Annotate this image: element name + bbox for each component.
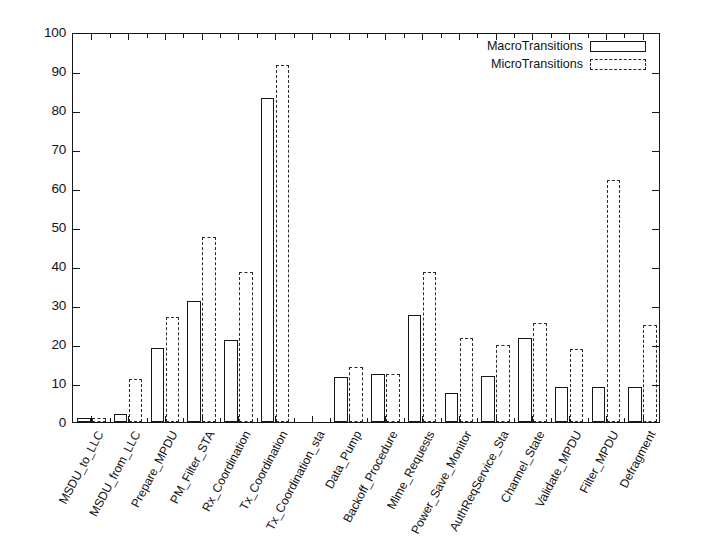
y-tick-mark: [652, 346, 659, 347]
x-tick-mark: [128, 34, 129, 40]
y-tick-label: 80: [32, 104, 66, 118]
y-tick-label: 50: [32, 221, 66, 235]
y-tick-mark: [73, 190, 80, 191]
x-tick-label: Filter_MPDU: [578, 429, 621, 495]
y-tick-mark: [652, 229, 659, 230]
x-tick-mark-minor: [257, 34, 258, 38]
bar-micro: [386, 374, 400, 422]
x-tick-mark: [238, 416, 239, 422]
x-tick-mark-minor: [147, 418, 148, 422]
bar-micro: [129, 379, 143, 422]
x-tick-mark: [606, 416, 607, 422]
bar-micro: [643, 325, 657, 423]
x-tick-mark: [312, 416, 313, 422]
legend-key-macro-icon: [590, 41, 646, 52]
x-tick-mark-minor: [110, 34, 111, 38]
bar-micro: [349, 367, 363, 422]
bar-micro: [533, 323, 547, 422]
x-tick-mark-minor: [404, 418, 405, 422]
x-tick-mark-minor: [477, 418, 478, 422]
y-tick-mark: [73, 307, 80, 308]
bar-micro: [607, 180, 621, 422]
y-tick-label: 60: [32, 182, 66, 196]
y-tick-label: 30: [32, 299, 66, 313]
y-tick-label: 20: [32, 338, 66, 352]
y-tick-label: 0: [32, 416, 66, 430]
y-tick-mark: [73, 268, 80, 269]
bar-macro: [628, 387, 642, 422]
x-tick-mark-minor: [294, 418, 295, 422]
x-tick-mark: [275, 416, 276, 422]
x-tick-mark-minor: [514, 418, 515, 422]
bar-macro: [151, 348, 165, 422]
y-axis: 0102030405060708090100: [26, 0, 66, 538]
bar-micro: [92, 418, 106, 422]
bars-layer: [73, 34, 659, 422]
x-tick-mark-minor: [147, 34, 148, 38]
bar-micro: [496, 345, 510, 422]
bar-chart: 0102030405060708090100 MSDU_to_LLCMSDU_f…: [0, 0, 710, 538]
x-tick-mark: [165, 34, 166, 40]
bar-macro: [114, 414, 128, 422]
x-tick-mark-minor: [257, 418, 258, 422]
x-tick-mark: [238, 34, 239, 40]
bar-micro: [460, 338, 474, 422]
x-tick-mark-minor: [441, 418, 442, 422]
x-tick-mark: [496, 416, 497, 422]
x-tick-mark-minor: [330, 418, 331, 422]
bar-micro: [276, 65, 290, 422]
bar-macro: [481, 376, 495, 422]
x-tick-mark: [385, 416, 386, 422]
x-tick-mark-minor: [220, 34, 221, 38]
y-tick-label: 100: [32, 26, 66, 40]
x-tick-mark-minor: [183, 34, 184, 38]
bar-macro: [77, 418, 91, 422]
x-tick-mark: [202, 34, 203, 40]
y-tick-label: 90: [32, 65, 66, 79]
bar-macro: [408, 315, 422, 422]
x-tick-mark: [643, 416, 644, 422]
bar-macro: [592, 387, 606, 422]
x-tick-mark: [532, 416, 533, 422]
x-tick-mark: [202, 416, 203, 422]
y-tick-label: 70: [32, 143, 66, 157]
x-tick-mark-minor: [183, 418, 184, 422]
legend-item-macro: MacroTransitions: [472, 38, 646, 54]
bar-macro: [334, 377, 348, 422]
x-tick-mark-minor: [220, 418, 221, 422]
y-tick-mark: [652, 385, 659, 386]
bar-macro: [555, 387, 569, 422]
x-tick-mark: [459, 34, 460, 40]
legend: MacroTransitions MicroTransitions: [468, 34, 650, 77]
x-tick-mark: [312, 34, 313, 40]
x-tick-mark-minor: [367, 418, 368, 422]
x-tick-mark: [275, 34, 276, 40]
y-tick-mark: [73, 112, 80, 113]
bar-micro: [166, 317, 180, 422]
x-tick-mark: [569, 416, 570, 422]
legend-item-micro: MicroTransitions: [472, 56, 646, 72]
y-tick-mark: [652, 307, 659, 308]
x-tick-mark: [128, 416, 129, 422]
bar-macro: [224, 340, 238, 422]
bar-macro: [518, 338, 532, 422]
x-tick-mark-minor: [588, 418, 589, 422]
x-tick-mark-minor: [624, 418, 625, 422]
plot-area: [72, 33, 660, 423]
x-tick-mark-minor: [294, 34, 295, 38]
x-tick-mark: [459, 416, 460, 422]
x-tick-mark-minor: [441, 34, 442, 38]
bar-micro: [202, 237, 216, 422]
bar-macro: [445, 393, 459, 422]
y-tick-mark: [652, 73, 659, 74]
x-tick-mark: [91, 416, 92, 422]
x-tick-mark: [349, 416, 350, 422]
x-tick-mark-minor: [330, 34, 331, 38]
y-tick-mark: [652, 151, 659, 152]
legend-label-macro: MacroTransitions: [487, 40, 583, 53]
bar-macro: [261, 98, 275, 422]
bar-macro: [187, 301, 201, 422]
y-tick-mark: [73, 73, 80, 74]
x-tick-mark-minor: [367, 34, 368, 38]
bar-micro: [423, 272, 437, 422]
